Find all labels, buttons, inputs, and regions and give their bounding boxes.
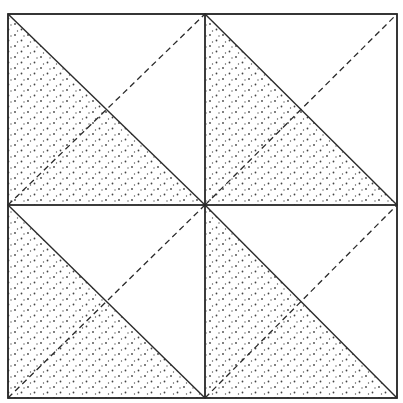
quadrant-top-right (205, 14, 397, 205)
quilt-diagram (0, 0, 403, 403)
quadrant-bottom-right (205, 205, 397, 398)
quadrant-bottom-left (8, 205, 205, 398)
quadrant-top-left (8, 14, 205, 205)
